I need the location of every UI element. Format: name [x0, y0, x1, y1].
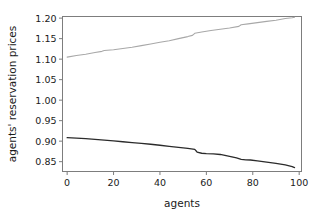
y-tick-label: 1.15 — [35, 33, 56, 44]
line-chart: 0.850.900.951.001.051.101.151.20 0204060… — [0, 0, 319, 215]
chart-figure: 0.850.900.951.001.051.101.151.20 0204060… — [0, 0, 319, 215]
y-tick-label: 0.90 — [35, 136, 56, 147]
y-tick-label: 0.85 — [35, 156, 56, 167]
x-tick-label: 0 — [64, 177, 70, 188]
y-tick-label: 1.05 — [35, 74, 56, 85]
x-axis-title: agents — [164, 197, 200, 209]
x-tick-label: 100 — [290, 177, 308, 188]
x-tick-label: 20 — [108, 177, 120, 188]
x-tick-label: 60 — [200, 177, 212, 188]
y-axis-title: agents' reservation prices — [6, 26, 18, 163]
x-tick-label: 80 — [247, 177, 259, 188]
x-tick-label: 40 — [154, 177, 166, 188]
y-tick-label: 0.95 — [35, 115, 56, 126]
y-tick-label: 1.10 — [35, 54, 56, 65]
y-tick-label: 1.20 — [35, 13, 56, 24]
y-tick-label: 1.00 — [35, 95, 56, 106]
